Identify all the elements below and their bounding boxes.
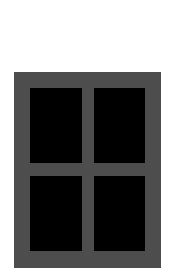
window-pane-top-right	[94, 88, 145, 163]
window-icon	[14, 72, 161, 268]
window-pane-bottom-left	[30, 176, 82, 251]
window-pane-top-left	[30, 88, 82, 163]
window-pane-bottom-right	[94, 176, 145, 251]
